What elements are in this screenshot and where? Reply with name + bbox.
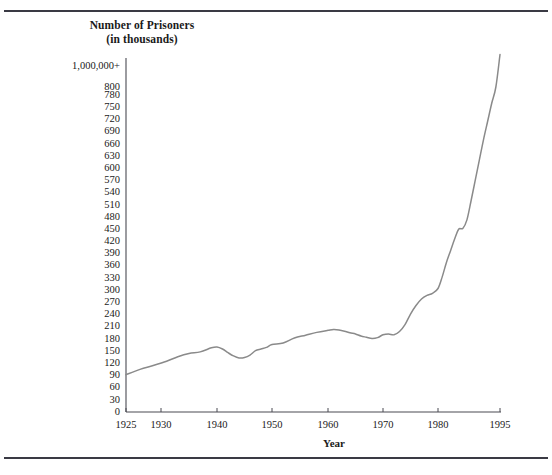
y-axis-tick-label: 330 [20,273,120,284]
x-axis-tick-label: 1970 [353,420,413,431]
x-axis-tick-label: 1950 [242,420,302,431]
x-axis-tick-label: 1940 [187,420,247,431]
y-axis-tick-label: 30 [20,395,120,406]
x-axis-title-text: Year [323,437,345,449]
y-axis-tick-label: 90 [20,370,120,381]
x-axis-title: Year [0,437,552,449]
y-axis-tick-label: 150 [20,346,120,357]
x-axis-tick-label: 1930 [131,420,191,431]
y-axis-tick-label: 800 [20,82,120,93]
x-axis-ticks [126,408,500,412]
y-axis-tick-label: 120 [20,358,120,369]
prisoners-data-line [126,55,500,375]
y-axis-tick-label: 240 [20,309,120,320]
y-axis-tick-label: 630 [20,151,120,162]
y-axis-tick-label: 0 [20,407,120,418]
x-axis-tick-label: 1995 [470,420,530,431]
y-axis-tick-label: 180 [20,334,120,345]
y-axis-tick-label: 570 [20,175,120,186]
figure-container: Number of Prisoners (in thousands) 03060… [0,0,552,475]
y-axis-tick-label: 450 [20,224,120,235]
axes [126,58,501,412]
y-axis-tick-label: 750 [20,102,120,113]
y-axis-tick-label: 480 [20,212,120,223]
x-axis-tick-label: 1960 [298,420,358,431]
y-axis-tick-label: 420 [20,236,120,247]
y-axis-tick-label: 210 [20,321,120,332]
y-axis-tick-label: 1,000,000+ [20,61,120,72]
x-axis-tick-label: 1980 [408,420,468,431]
y-axis-tick-label: 720 [20,114,120,125]
y-axis-tick-label: 300 [20,285,120,296]
y-axis-tick-label: 690 [20,126,120,137]
y-axis-tick-label: 600 [20,163,120,174]
y-axis-tick-label: 60 [20,382,120,393]
y-axis-tick-label: 270 [20,297,120,308]
y-axis-tick-label: 360 [20,260,120,271]
y-axis-tick-label: 540 [20,187,120,198]
y-axis-tick-label: 390 [20,248,120,259]
y-axis-tick-label: 660 [20,139,120,150]
y-axis-tick-label: 510 [20,200,120,211]
